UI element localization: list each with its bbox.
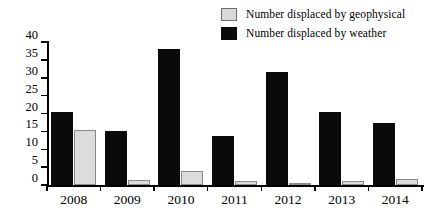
y-tick-label: 0 <box>0 172 38 185</box>
bar-weather-2014 <box>373 123 395 185</box>
legend-label-geophysical: Number displaced by geophysical <box>246 8 405 21</box>
legend-label-weather: Number displaced by weather <box>246 27 386 40</box>
bar-weather-2013 <box>319 112 341 185</box>
bar-geophysical-2013 <box>342 181 364 185</box>
x-tick <box>421 186 423 191</box>
bar-weather-2009 <box>105 131 127 185</box>
x-tick <box>314 186 316 191</box>
bar-geophysical-2011 <box>235 181 257 185</box>
x-tick <box>261 186 263 191</box>
bar-geophysical-2008 <box>74 130 96 185</box>
x-tick-label-2010: 2010 <box>151 192 211 207</box>
bar-geophysical-2012 <box>289 183 311 185</box>
x-tick-label-2009: 2009 <box>97 192 157 207</box>
bar-weather-2011 <box>212 136 234 185</box>
bar-chart: Number displaced by geophysical Number d… <box>0 0 437 217</box>
legend-item-geophysical: Number displaced by geophysical <box>221 6 437 23</box>
x-tick-label-2014: 2014 <box>365 192 425 207</box>
x-tick <box>100 186 102 191</box>
y-tick-label: 5 <box>0 154 38 167</box>
bar-weather-2010 <box>158 49 180 185</box>
x-tick-label-2011: 2011 <box>205 192 265 207</box>
plot-area <box>47 42 422 185</box>
x-tick <box>207 186 209 191</box>
y-tick-label: 20 <box>0 101 38 114</box>
y-tick-label: 10 <box>0 136 38 149</box>
bar-weather-2008 <box>51 112 73 185</box>
bar-geophysical-2010 <box>181 171 203 185</box>
bar-weather-2012 <box>266 72 288 185</box>
y-tick-label: 40 <box>0 29 38 42</box>
x-tick-label-2013: 2013 <box>312 192 372 207</box>
x-tick <box>153 186 155 191</box>
y-tick-label: 30 <box>0 65 38 78</box>
y-tick-label: 25 <box>0 83 38 96</box>
y-tick-label: 15 <box>0 118 38 131</box>
y-tick-label: 35 <box>0 47 38 60</box>
weather-swatch-icon <box>221 27 237 40</box>
bar-geophysical-2014 <box>396 179 418 185</box>
x-tick <box>368 186 370 191</box>
x-tick-label-2008: 2008 <box>44 192 104 207</box>
geophysical-swatch-icon <box>221 8 237 21</box>
chart-legend: Number displaced by geophysical Number d… <box>221 6 437 44</box>
x-tick-label-2012: 2012 <box>258 192 318 207</box>
bar-geophysical-2009 <box>128 180 150 185</box>
x-tick <box>46 186 48 191</box>
legend-item-weather: Number displaced by weather <box>221 25 437 42</box>
